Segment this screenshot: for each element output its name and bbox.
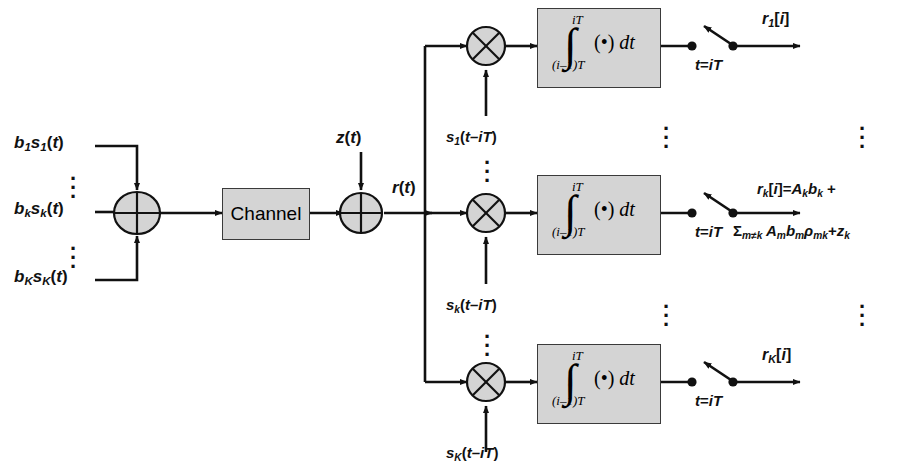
input-ellipsis-lower: ... <box>66 238 80 266</box>
integral-integrand-k: (•) dt <box>594 198 635 221</box>
integral-integrand-1: (•) dt <box>594 31 635 54</box>
local-code-label-K: sK(t–iT) <box>446 444 498 464</box>
distribution-bus <box>425 46 467 382</box>
sampler-label-k: t=iT <box>695 223 722 240</box>
integrator-block-1: iT ∫ (i–1)T (•) dt <box>537 8 661 88</box>
channel-label: Channel <box>231 203 302 225</box>
integral-lower-limit-k: (i–1)T <box>552 224 585 240</box>
sampler-label-1: t=iT <box>695 56 722 73</box>
sampler-label-K: t=iT <box>695 392 722 409</box>
branch-ellipsis-upper: ... <box>480 152 494 180</box>
channel-block: Channel <box>222 188 310 240</box>
wire-input-K <box>95 236 137 280</box>
integrator-block-K: iT ∫ (i–1)T (•) dt <box>537 344 661 424</box>
output-ellipsis-lower: ... <box>855 296 869 324</box>
input-label-K: bKsK(t) <box>14 267 68 289</box>
block-diagram-canvas: b1s1(t) ... bksk(t) ... bKsK(t) Channel … <box>0 0 911 473</box>
input-label-k: bksk(t) <box>14 199 64 221</box>
local-code-label-k: sk(t–iT) <box>446 296 497 316</box>
input-ellipsis-upper: ... <box>66 168 80 196</box>
integrator-ellipsis-lower: ... <box>659 296 673 324</box>
output-label-k: rk[i]=Akbk + <box>757 180 836 200</box>
sampler-switch-1 <box>687 26 800 51</box>
input-label-1: b1s1(t) <box>14 133 64 155</box>
integral-lower-limit-1: (i–1)T <box>552 57 585 73</box>
output-ellipsis-upper: ... <box>855 118 869 146</box>
output-label-1: r1[i] <box>762 10 789 30</box>
noise-label: z(t) <box>336 128 362 148</box>
integrator-ellipsis-upper: ... <box>659 118 673 146</box>
transmit-summer <box>114 192 160 234</box>
integral-lower-limit-K: (i–1)T <box>552 393 585 409</box>
received-signal-label: r(t) <box>392 178 416 198</box>
output-label-K: rK[i] <box>762 346 791 366</box>
branch-ellipsis-lower: ... <box>480 326 494 354</box>
integrator-block-k: iT ∫ (i–1)T (•) dt <box>537 175 661 255</box>
integrator-to-sampler-wires <box>659 46 692 382</box>
integral-integrand-K: (•) dt <box>594 367 635 390</box>
multiplier-K <box>467 363 505 401</box>
mult-to-integrator-wires <box>505 46 537 382</box>
sampler-switch-K <box>687 362 800 387</box>
multiplier-1 <box>467 27 505 65</box>
output-label-k-line2: Σm≠k Ambmρmk+zk <box>733 222 850 242</box>
wire-input-1 <box>95 146 137 190</box>
multiplier-k <box>467 194 505 232</box>
noise-summer <box>340 193 382 233</box>
